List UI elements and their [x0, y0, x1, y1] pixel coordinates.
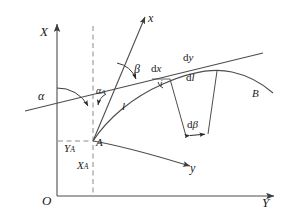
diagram-canvas: X Y O x y A B XA YA α αA β i dx dy	[0, 0, 290, 220]
radius-line-right	[208, 71, 217, 134]
angle-label-beta: β	[134, 63, 140, 75]
coordinate-label-XA: XA	[77, 160, 88, 171]
axis-label-Y: Y	[262, 196, 269, 209]
curve-length-label-l: l	[122, 101, 125, 112]
coordinate-label-YA-sub: A	[70, 145, 75, 154]
local-y-axis	[93, 141, 190, 166]
differential-label-dx: dx	[151, 63, 161, 74]
local-x-axis	[93, 17, 145, 141]
point-label-A: A	[96, 137, 103, 148]
coordinate-label-YA: YA	[64, 143, 75, 154]
global-axes-group	[57, 24, 274, 196]
differential-label-dl: dl	[186, 72, 195, 83]
angle-label-alpha-A-sub: A	[101, 88, 105, 96]
coordinate-label-XA-sub: A	[84, 162, 89, 171]
local-axis-label-x: x	[148, 12, 153, 24]
curve-A-to-B	[93, 71, 273, 142]
point-label-B: B	[252, 88, 259, 99]
local-axis-label-y: y	[190, 162, 195, 174]
axis-label-X: X	[40, 25, 48, 38]
tangent-reference-line	[25, 53, 263, 111]
differential-label-dbeta: dβ	[187, 119, 198, 130]
differential-label-dy: dy	[183, 52, 193, 63]
angle-label-alpha: α	[38, 90, 44, 102]
origin-label-O: O	[42, 194, 51, 207]
d-beta-measure-arrow	[190, 134, 205, 135]
angle-label-i: i	[160, 79, 163, 88]
angle-label-alpha-A: αA	[96, 86, 106, 96]
radius-line-left	[170, 79, 186, 136]
